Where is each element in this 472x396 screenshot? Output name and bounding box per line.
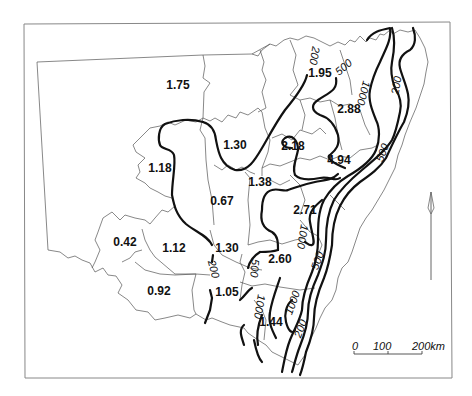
region-value: 2.71 [293,203,317,217]
region-value: 1.30 [215,241,239,255]
region-value: 1.30 [223,138,247,152]
region-value: 2.18 [281,139,305,153]
region-value: 1.18 [148,161,172,175]
region-value: 1.95 [308,66,332,80]
region-value: 0.67 [210,194,234,208]
region-value: 1.75 [166,78,190,92]
region-value: 4.94 [327,153,351,167]
contour-map: 1.75 1.95 2.88 1.30 2.18 4.94 1.18 1.38 … [0,0,472,396]
scale-label-0: 0 [352,340,359,352]
region-value: 1.05 [215,285,239,299]
region-value: 2.60 [268,252,292,266]
region-values: 1.75 1.95 2.88 1.30 2.18 4.94 1.18 1.38 … [113,66,361,329]
region-value: 1.38 [248,175,272,189]
contour-label: 200 [205,258,222,281]
contour-label: 500 [333,56,355,78]
contour-label: 1000 [295,224,311,251]
contour-label: 500 [248,259,262,279]
contour-label: 200 [388,74,403,96]
region-value: 2.88 [337,102,361,116]
scale-bar: 0 100 200km [352,340,445,354]
region-value: 0.42 [113,235,137,249]
map-frame [24,22,452,378]
region-value: 1.12 [162,241,186,255]
contour-label: 1000 [282,288,302,316]
region-value: 0.92 [147,284,171,298]
north-arrow-icon [428,192,434,280]
scale-label-100: 100 [373,340,392,352]
contour-lines [159,28,415,375]
contour-label: 500 [308,249,326,271]
scale-label-200km: 200km [411,340,445,352]
contour-label: 200 [307,45,322,67]
